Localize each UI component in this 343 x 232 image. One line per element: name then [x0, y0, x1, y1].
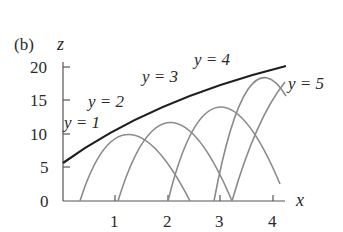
z-tick-label-15: 15 [30, 91, 47, 110]
z-tick-label-5: 5 [40, 158, 49, 177]
x-tick-label-4: 4 [268, 212, 277, 231]
curve-label-y1: y = 1 [62, 113, 100, 132]
x-axis-label: x [295, 190, 304, 210]
x-tick-label-2: 2 [163, 212, 172, 231]
curve-label-y5: y = 5 [286, 74, 324, 93]
curve-y1 [80, 135, 190, 202]
trajectory-chart: (b) z x 20 15 10 5 0 1 2 3 4 y = 1 y = 2… [0, 0, 343, 232]
curve-label-y2: y = 2 [86, 92, 125, 111]
x-tick-label-1: 1 [110, 212, 119, 231]
z-axis-label: z [56, 34, 64, 54]
curve-y2 [118, 123, 232, 202]
panel-label: (b) [14, 35, 34, 54]
z-tick-label-20: 20 [30, 58, 47, 77]
z-tick-label-0: 0 [40, 192, 49, 211]
curve-label-y3: y = 3 [140, 67, 178, 86]
z-tick-label-10: 10 [30, 125, 47, 144]
x-tick-label-3: 3 [215, 212, 224, 231]
curve-label-y4: y = 4 [192, 50, 231, 69]
